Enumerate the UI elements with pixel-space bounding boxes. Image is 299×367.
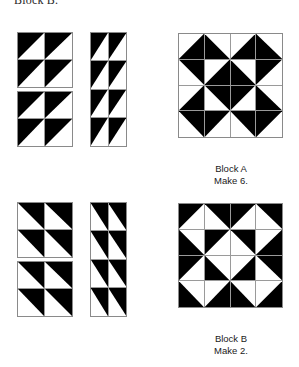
hst-cell-tr — [45, 203, 72, 230]
hst-cell-tr — [205, 204, 231, 230]
hst-cell-tr — [109, 231, 127, 259]
top-heading-clipped: Block B. — [14, 0, 58, 8]
hst-cell-tr — [109, 260, 127, 288]
hst-cell-tr — [18, 230, 45, 257]
hst-cell-br — [231, 256, 257, 282]
hst-cell-tl — [18, 60, 45, 87]
hst-cell-tr — [231, 111, 257, 137]
hst-cell-tr — [256, 204, 282, 230]
block-b-caption-name: Block B — [186, 333, 276, 345]
hst-cell-tl — [18, 33, 45, 60]
hst-cell-br — [256, 281, 282, 307]
hst-cell-tl — [109, 90, 127, 118]
hst-cell-tr — [179, 111, 205, 137]
quilt-block-diagram: Block B. Block AMake 6.Block BMake 2. — [0, 0, 299, 367]
hst-cell-tl — [109, 33, 127, 61]
hst-cell-br — [256, 230, 282, 256]
hst-cell-tr — [91, 288, 109, 316]
hst-cell-tl — [45, 119, 72, 146]
hst-cell-tr — [91, 203, 109, 231]
hst-cell-tl — [91, 33, 109, 61]
hst-cell-bl — [231, 60, 257, 86]
block-a-fourpatch-top — [17, 32, 73, 88]
hst-cell-tr — [109, 203, 127, 231]
hst-cell-bl — [205, 256, 231, 282]
hst-cell-tr — [205, 86, 231, 112]
hst-cell-tr — [91, 231, 109, 259]
hst-cell-bl — [256, 34, 282, 60]
hst-cell-tl — [256, 111, 282, 137]
hst-cell-tl — [18, 92, 45, 119]
hst-cell-tr — [45, 289, 72, 316]
hst-cell-br — [179, 34, 205, 60]
hst-cell-tr — [91, 260, 109, 288]
hst-cell-tl — [109, 118, 127, 146]
block-b-fourpatch-top — [17, 202, 73, 258]
hst-cell-tl — [205, 111, 231, 137]
block-a-caption-quantity: Make 6. — [186, 175, 276, 187]
hst-cell-tr — [179, 60, 205, 86]
hst-cell-tr — [18, 262, 45, 289]
hst-cell-tl — [18, 119, 45, 146]
hst-cell-tl — [45, 92, 72, 119]
hst-cell-tr — [45, 230, 72, 257]
hst-cell-tl — [231, 86, 257, 112]
hst-cell-tr — [231, 230, 257, 256]
block-a-caption: Block AMake 6. — [186, 163, 276, 186]
hst-cell-tl — [256, 60, 282, 86]
hst-cell-tl — [205, 230, 231, 256]
hst-cell-tl — [91, 118, 109, 146]
hst-cell-br — [231, 34, 257, 60]
block-a-assembled — [178, 33, 283, 138]
hst-cell-bl — [179, 230, 205, 256]
block-b-fourpatch-bottom — [17, 261, 73, 317]
hst-cell-tl — [109, 61, 127, 89]
hst-cell-tl — [45, 60, 72, 87]
hst-cell-tr — [18, 203, 45, 230]
block-a-strip — [90, 32, 127, 147]
hst-cell-tr — [18, 289, 45, 316]
block-b-caption: Block BMake 2. — [186, 333, 276, 356]
hst-cell-tl — [91, 90, 109, 118]
hst-cell-tr — [256, 256, 282, 282]
hst-cell-br — [205, 281, 231, 307]
block-b-caption-quantity: Make 2. — [186, 345, 276, 357]
hst-cell-tl — [179, 256, 205, 282]
block-a-caption-name: Block A — [186, 163, 276, 175]
hst-cell-tl — [91, 61, 109, 89]
hst-cell-br — [179, 86, 205, 112]
block-b-strip — [90, 202, 127, 317]
hst-cell-tr — [45, 262, 72, 289]
block-b-assembled — [178, 203, 283, 308]
block-a-fourpatch-bottom — [17, 91, 73, 147]
hst-cell-tl — [231, 204, 257, 230]
hst-cell-bl — [205, 34, 231, 60]
hst-cell-tr — [109, 288, 127, 316]
hst-cell-bl — [256, 86, 282, 112]
hst-cell-bl — [179, 281, 205, 307]
hst-cell-tl — [179, 204, 205, 230]
hst-cell-br — [205, 60, 231, 86]
hst-cell-bl — [231, 281, 257, 307]
hst-cell-tl — [45, 33, 72, 60]
